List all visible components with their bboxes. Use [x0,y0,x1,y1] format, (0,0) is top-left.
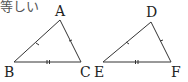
triangle-abc [14,20,81,64]
tick-ab [36,43,39,45]
triangle-def [103,22,171,64]
label-a: A [54,3,66,19]
label-c: C [80,64,91,80]
tick-ac [69,40,72,41]
label-b: B [4,64,14,80]
label-e: E [94,64,104,80]
triangle-abc-shape [14,20,81,62]
triangle-diagram: A B C D E F [0,0,188,82]
label-f: F [171,64,181,80]
triangle-def-shape [103,22,171,62]
label-d: D [146,4,157,20]
